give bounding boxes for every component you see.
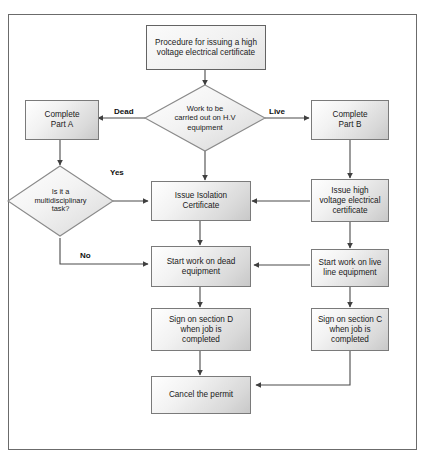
node-issue-hv-line-3: certificate bbox=[320, 206, 381, 216]
node-sign-d-line-3: completed bbox=[169, 335, 233, 345]
node-complete-part-b-line-1: Complete bbox=[332, 110, 367, 120]
node-sign-section-c[interactable]: Sign on section C when job is completed bbox=[311, 308, 389, 351]
node-sign-c-line-3: completed bbox=[318, 335, 382, 345]
node-work-decision[interactable]: Work to be carried out on H.V equipment bbox=[145, 85, 265, 151]
node-start-work-live[interactable]: Start work on live line equipment bbox=[311, 249, 389, 287]
node-cancel-permit[interactable]: Cancel the permit bbox=[151, 376, 251, 414]
node-issue-isolation-certificate[interactable]: Issue Isolation Certificate bbox=[151, 181, 251, 221]
edge-label-no: No bbox=[80, 251, 91, 260]
node-start-dead-line-2: equipment bbox=[167, 267, 236, 277]
node-multidisciplinary-line-3: task? bbox=[34, 205, 86, 214]
node-complete-part-a[interactable]: Complete Part A bbox=[25, 100, 99, 140]
node-work-decision-line-3: equipment bbox=[174, 123, 235, 132]
node-start-dead-line-1: Start work on dead bbox=[167, 257, 236, 267]
node-issue-hv-certificate[interactable]: Issue high voltage electrical certificat… bbox=[311, 179, 389, 222]
node-work-decision-line-2: carried out on H.V bbox=[174, 113, 235, 122]
node-multidisciplinary-decision[interactable]: Is it a multidisciplinary task? bbox=[8, 166, 113, 236]
node-sign-c-line-2: when job is bbox=[318, 325, 382, 335]
node-issue-hv-line-1: Issue high bbox=[320, 186, 381, 196]
node-start-work-dead[interactable]: Start work on dead equipment bbox=[151, 246, 251, 287]
node-cancel-permit-line-1: Cancel the permit bbox=[169, 390, 233, 400]
node-work-decision-line-1: Work to be bbox=[174, 104, 235, 113]
edge-label-live: Live bbox=[269, 107, 285, 116]
node-issue-hv-line-2: voltage electrical bbox=[320, 196, 381, 206]
title-line-2: voltage electrical certificate bbox=[155, 48, 257, 58]
node-sign-d-line-2: when job is bbox=[169, 325, 233, 335]
edge-label-dead: Dead bbox=[114, 107, 134, 116]
node-start-live-line-1: Start work on live bbox=[319, 258, 382, 268]
title-box: Procedure for issuing a high voltage ele… bbox=[146, 25, 266, 70]
node-sign-section-d[interactable]: Sign on section D when job is completed bbox=[151, 308, 251, 351]
node-sign-d-line-1: Sign on section D bbox=[169, 315, 233, 325]
node-complete-part-a-line-2: Part A bbox=[44, 120, 79, 130]
node-sign-c-line-1: Sign on section C bbox=[318, 315, 382, 325]
node-complete-part-b[interactable]: Complete Part B bbox=[311, 100, 389, 140]
flowchart-canvas: Procedure for issuing a high voltage ele… bbox=[0, 0, 429, 466]
node-issue-isolation-line-1: Issue Isolation bbox=[175, 191, 227, 201]
node-start-live-line-2: line equipment bbox=[319, 268, 382, 278]
title-line-1: Procedure for issuing a high bbox=[155, 38, 257, 48]
node-issue-isolation-line-2: Certificate bbox=[175, 201, 227, 211]
node-complete-part-a-line-1: Complete bbox=[44, 110, 79, 120]
node-complete-part-b-line-2: Part B bbox=[332, 120, 367, 130]
edge-label-yes: Yes bbox=[110, 168, 124, 177]
